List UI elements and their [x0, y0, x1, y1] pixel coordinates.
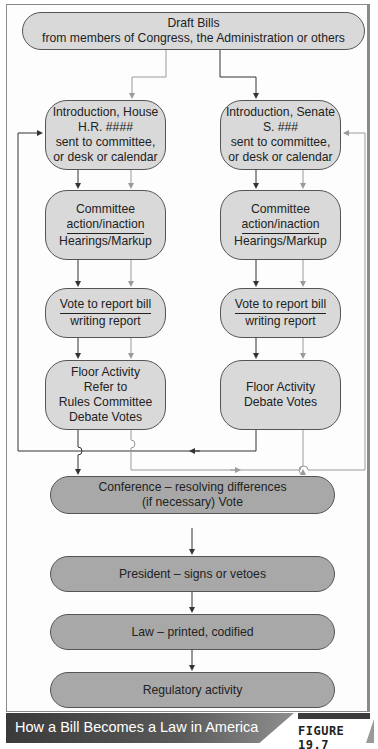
node-senate-floor: Floor Activity Debate Votes [220, 360, 341, 430]
figure-label-bar [298, 713, 370, 719]
node-text: Debate Votes [244, 395, 317, 410]
node-text: Regulatory activity [143, 683, 243, 698]
node-text: Floor Activity [71, 365, 140, 380]
node-text: writing report [245, 314, 315, 329]
node-text: Committee [251, 202, 310, 217]
node-text: Debate Votes [69, 410, 142, 425]
node-house-committee: Committee action/inaction Hearings/Marku… [45, 190, 166, 260]
node-text: Law – printed, codified [132, 625, 254, 640]
node-text: Refer to [84, 380, 127, 395]
node-text: action/inaction [67, 217, 145, 234]
figure-label: FIGURE 19.7 [298, 724, 372, 749]
node-house-introduction: Introduction, House H.R. #### sent to co… [45, 100, 166, 170]
node-text: or desk or calendar [228, 150, 332, 165]
node-house-vote: Vote to report bill writing report [45, 288, 166, 338]
node-text: Vote to report bill [235, 297, 326, 314]
node-text: (if necessary) Vote [142, 495, 243, 510]
node-law: Law – printed, codified [50, 614, 335, 650]
node-text: H.R. #### [78, 120, 133, 135]
node-regulatory: Regulatory activity [50, 672, 335, 708]
node-text: Introduction, House [53, 105, 159, 120]
arrow-draft-to-house [132, 50, 166, 96]
node-text: Hearings/Markup [59, 234, 152, 249]
node-text: Rules Committee [59, 395, 152, 410]
figure-footer: How a Bill Becomes a Law in America FIGU… [6, 713, 372, 743]
node-text: Hearings/Markup [234, 234, 327, 249]
node-text: Committee [76, 202, 135, 217]
node-president: President – signs or vetoes [50, 556, 335, 592]
node-text: Floor Activity [246, 380, 315, 395]
node-house-floor: Floor Activity Refer to Rules Committee … [45, 360, 166, 430]
node-text: writing report [70, 314, 140, 329]
node-text: or desk or calendar [53, 150, 157, 165]
node-text: President – signs or vetoes [119, 567, 266, 582]
node-text: from members of Congress, the Administra… [42, 31, 345, 46]
node-text: Vote to report bill [60, 297, 151, 314]
node-text: action/inaction [242, 217, 320, 234]
figure-caption: How a Bill Becomes a Law in America [15, 719, 258, 735]
node-text: sent to committee, [231, 135, 331, 150]
node-conference: Conference – resolving differences (if n… [50, 476, 335, 514]
node-senate-introduction: Introduction, Senate S. ### sent to comm… [220, 100, 341, 170]
node-draft-bills: Draft Bills from members of Congress, th… [22, 12, 365, 50]
node-text: S. ### [263, 120, 298, 135]
node-senate-vote: Vote to report bill writing report [220, 288, 341, 338]
node-text: Introduction, Senate [226, 105, 335, 120]
node-text: Conference – resolving differences [98, 480, 286, 495]
node-senate-committee: Committee action/inaction Hearings/Marku… [220, 190, 341, 260]
node-text: Draft Bills [167, 16, 219, 31]
arrow-draft-to-senate [220, 50, 256, 96]
node-text: sent to committee, [56, 135, 156, 150]
